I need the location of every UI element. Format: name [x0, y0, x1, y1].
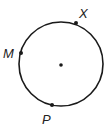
point-m	[19, 51, 23, 55]
label-m: M	[3, 46, 14, 61]
label-p: P	[42, 112, 51, 127]
point-x	[74, 21, 78, 25]
label-x: X	[78, 6, 89, 21]
circle-diagram: M X P	[0, 0, 109, 127]
center-point	[59, 63, 63, 67]
point-p	[50, 103, 54, 107]
